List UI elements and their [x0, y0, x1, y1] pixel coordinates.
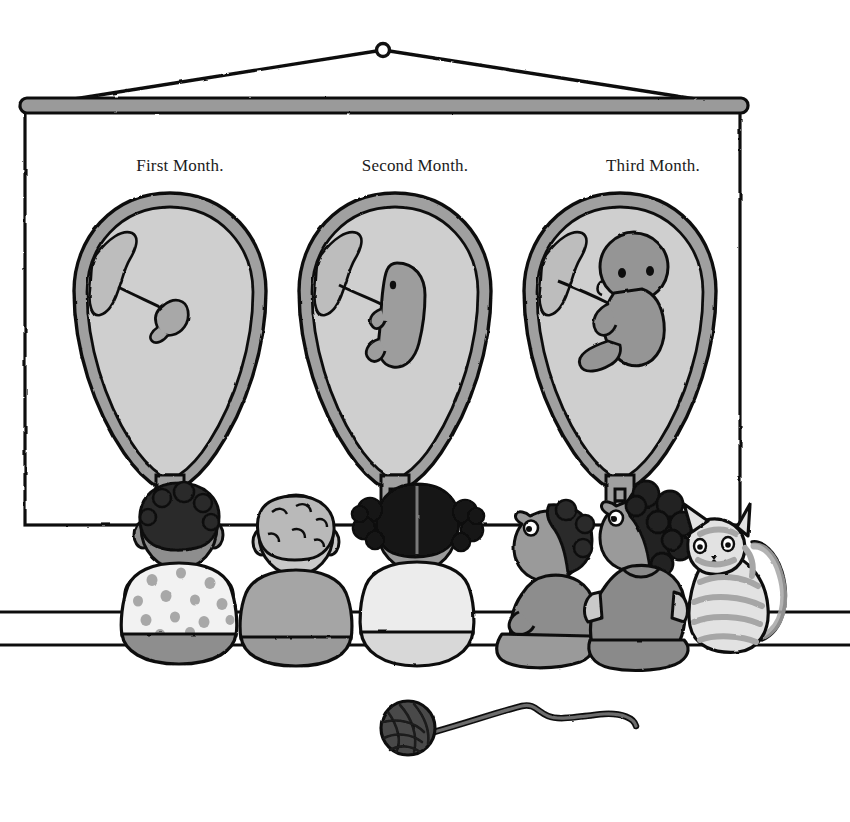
- child-2-shirt: [240, 570, 352, 639]
- scene-artwork: [0, 0, 850, 822]
- child-3-back-view[interactable]: [352, 484, 484, 666]
- child-1-pants: [122, 634, 236, 664]
- child-3-skirt: [361, 632, 473, 666]
- child-5-profile-view[interactable]: [585, 481, 694, 670]
- chart-rod: [20, 98, 748, 113]
- child-3-shirt: [360, 562, 474, 634]
- yarn-ball[interactable]: [381, 701, 636, 755]
- chart-label-first-month: First Month.: [120, 156, 240, 176]
- child-5-seat: [589, 640, 688, 670]
- child-4-legs: [497, 634, 593, 668]
- tabby-cat[interactable]: [684, 504, 785, 652]
- hanger-ring-icon: [377, 44, 390, 57]
- chart-label-second-month: Second Month.: [340, 156, 490, 176]
- child-2-pants: [241, 637, 351, 666]
- illustration-canvas: First Month. Second Month. Third Month.: [0, 0, 850, 822]
- chart-label-third-month: Third Month.: [588, 156, 718, 176]
